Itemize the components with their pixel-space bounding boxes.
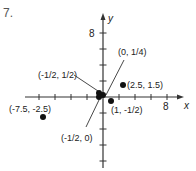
data-point xyxy=(120,82,126,88)
leader-line xyxy=(74,75,98,91)
y-axis-label: y xyxy=(107,13,114,24)
point-label: (-1/2, 1/2) xyxy=(38,70,77,80)
leader-line xyxy=(86,100,99,127)
point-label: (1, -1/2) xyxy=(111,105,143,115)
x-axis-arrow-icon xyxy=(177,95,184,100)
point-label: (-1/2, 0) xyxy=(61,133,93,143)
leader-line xyxy=(106,60,124,95)
axes: xy xyxy=(25,13,190,168)
data-point xyxy=(96,94,102,100)
y-axis-arrow-icon xyxy=(101,13,106,20)
point-label: (-7.5, -2.5) xyxy=(9,104,51,114)
scatter-plot: xy 88 (-7.5, -2.5)(2.5, 1.5)(0, 1/4)(-1/… xyxy=(0,0,196,171)
point-label: (0, 1/4) xyxy=(118,47,147,57)
data-point xyxy=(108,98,114,104)
point-label: (2.5, 1.5) xyxy=(127,80,163,90)
point-labels: (-7.5, -2.5)(2.5, 1.5)(0, 1/4)(-1/2, 1/2… xyxy=(9,47,163,143)
x-tick-label: 8 xyxy=(163,101,169,112)
y-tick-label: 8 xyxy=(89,28,95,39)
x-axis-label: x xyxy=(183,100,190,111)
data-point xyxy=(40,114,46,120)
